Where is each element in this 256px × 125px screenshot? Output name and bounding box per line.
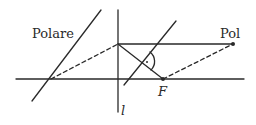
polar-line bbox=[32, 10, 101, 101]
polar-diagram: Polare Pol F l bbox=[0, 0, 256, 125]
focal-segment bbox=[118, 44, 163, 79]
dashed-left bbox=[51, 44, 118, 79]
line-l-label: l bbox=[121, 104, 125, 117]
dashed-right bbox=[163, 44, 233, 79]
right-angle-arc bbox=[150, 52, 155, 70]
tangent-line bbox=[124, 21, 176, 85]
pol-label: Pol bbox=[220, 27, 240, 40]
diagram-svg bbox=[0, 0, 256, 125]
right-angle-dot bbox=[146, 61, 148, 63]
focus-point bbox=[161, 77, 165, 81]
focus-label: F bbox=[158, 85, 167, 98]
polare-label: Polare bbox=[32, 27, 74, 40]
pol-point bbox=[231, 42, 235, 46]
